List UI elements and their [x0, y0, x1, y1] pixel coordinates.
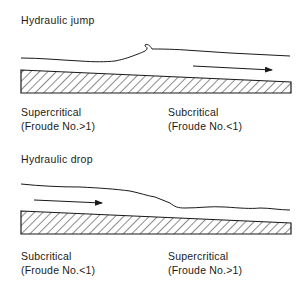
panel-hydraulic-jump [21, 44, 291, 93]
channel-bed [21, 70, 291, 93]
froude-label: (Froude No.<1) [21, 263, 95, 277]
regime-label: Supercritical [168, 249, 242, 263]
regime-label: Supercritical [21, 105, 95, 119]
jump-left-label: Supercritical (Froude No.>1) [21, 105, 95, 133]
drop-right-label: Supercritical (Froude No.>1) [168, 249, 242, 277]
regime-label: Subcritical [21, 249, 95, 263]
water-surface [21, 44, 290, 61]
flow-arrow [193, 66, 272, 70]
jump-right-label: Subcritical (Froude No.<1) [168, 105, 242, 133]
froude-label: (Froude No.>1) [21, 119, 95, 133]
flow-arrow [34, 200, 102, 203]
regime-label: Subcritical [168, 105, 242, 119]
hydraulic-diagram [0, 0, 302, 287]
panel-title-jump: Hydraulic jump [21, 14, 95, 26]
panel-hydraulic-drop [21, 184, 291, 234]
froude-label: (Froude No.<1) [168, 119, 242, 133]
drop-left-label: Subcritical (Froude No.<1) [21, 249, 95, 277]
panel-title-drop: Hydraulic drop [21, 153, 93, 165]
water-surface [21, 184, 290, 210]
froude-label: (Froude No.>1) [168, 263, 242, 277]
channel-bed [21, 211, 291, 234]
